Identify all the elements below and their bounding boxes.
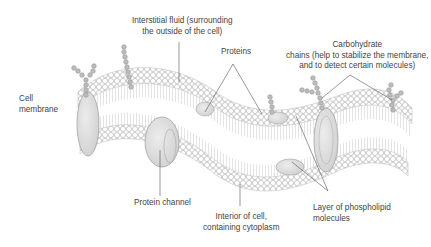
label-interior-of-cell: Interior of cell, containing cytoplasm (203, 212, 279, 233)
right-transmembrane-protein (314, 108, 338, 172)
label-proteins: Proteins (221, 47, 251, 58)
left-transmembrane-protein (77, 92, 99, 156)
inner-surface-protein (276, 159, 304, 175)
label-interstitial-fluid: Interstitial fluid (surrounding the outs… (132, 16, 233, 37)
label-protein-channel: Protein channel (134, 198, 191, 209)
surface-protein-upper (196, 102, 214, 116)
label-carbohydrate-chains: Carbohydrate chains (help to stabilize t… (286, 40, 428, 72)
label-cell-membrane: Cell membrane (19, 94, 58, 115)
label-phospholipid-layer: Layer of phospholipid molecules (313, 203, 391, 224)
